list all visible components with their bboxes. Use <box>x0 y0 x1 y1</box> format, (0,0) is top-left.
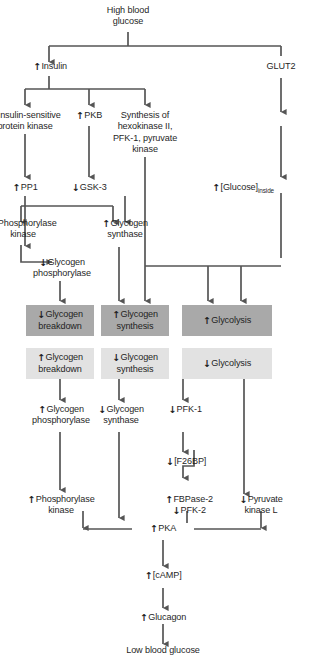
up-arrow-icon: ↑ <box>12 183 20 193</box>
node-glycogen-synthase-bottom-label: Glycogen synthase <box>103 404 144 425</box>
box-glycolysis-increase: ↑Glycolysis <box>182 305 272 336</box>
node-f26bp: ↓[F26BP] <box>150 456 222 467</box>
node-camp: ↑[cAMP] <box>128 570 198 581</box>
node-pfk2: ↓PFK-2 <box>153 505 225 516</box>
down-arrow-icon: ↓ <box>37 310 45 320</box>
node-glycogen-synthase-top-label: Glycogen synthase <box>107 218 148 239</box>
node-synthesis-enzymes: Synthesis of hexokinase II, PFK-1, pyruv… <box>104 110 186 156</box>
node-glut2: GLUT2 <box>249 61 313 72</box>
node-pfk1-label: PFK-1 <box>177 404 202 414</box>
up-arrow-icon: ↑ <box>165 495 173 505</box>
up-arrow-icon: ↑ <box>203 316 211 326</box>
up-arrow-icon: ↑ <box>212 183 220 193</box>
node-insulin-sensitive-protein-kinase: ↑Insulin-sensitive protein kinase <box>0 110 68 133</box>
node-insulin: ↑Insulin <box>14 61 86 72</box>
box-glycolysis-decrease-label: Glycolysis <box>211 358 251 368</box>
up-arrow-icon: ↑ <box>150 524 158 534</box>
node-low-blood-glucose-label: Low blood glucose <box>126 645 200 655</box>
box-glycogen-breakdown-decrease-label: Glycogen breakdown <box>38 309 83 330</box>
down-arrow-icon: ↓ <box>98 405 106 415</box>
node-f26bp-label: [F26BP] <box>174 456 206 466</box>
node-glucagon: ↑Glucagon <box>126 612 200 623</box>
node-phosphorylase-kinase-bottom: ↑Phosphorylase kinase <box>18 494 104 517</box>
node-gsk3: ↓GSK-3 <box>59 182 119 193</box>
node-glucose-inside-label: [Glucose] <box>220 182 258 192</box>
box-glycolysis-increase-label: Glycolysis <box>211 315 251 325</box>
down-arrow-icon: ↓ <box>166 457 174 467</box>
node-glucose-inside-subscript: inside <box>258 187 274 194</box>
up-arrow-icon: ↑ <box>76 111 84 121</box>
box-glycogen-synthesis-increase-label: Glycogen synthesis <box>116 309 158 330</box>
down-arrow-icon: ↓ <box>239 495 247 505</box>
node-high-blood-glucose-label: High blood glucose <box>107 5 149 26</box>
node-glucagon-label: Glucagon <box>148 612 186 622</box>
up-arrow-icon: ↑ <box>27 495 35 505</box>
node-pfk1: ↓PFK-1 <box>155 404 215 415</box>
node-pyruvate-kinase-l: ↓Pyruvate kinase L <box>226 494 296 517</box>
node-phosphorylase-kinase-top-label: Phosphorylase kinase <box>0 218 57 239</box>
down-arrow-icon: ↓ <box>203 359 211 369</box>
node-pp1: ↑PP1 <box>0 182 56 193</box>
box-glycogen-synthesis-decrease-label: Glycogen synthesis <box>116 352 158 373</box>
node-insulin-sensitive-protein-kinase-label: Insulin-sensitive protein kinase <box>0 110 61 131</box>
box-glycogen-breakdown-decrease: ↓Glycogen breakdown <box>26 305 94 336</box>
down-arrow-icon: ↓ <box>39 258 47 268</box>
node-camp-label: [cAMP] <box>153 570 182 580</box>
node-low-blood-glucose: Low blood glucose <box>108 645 218 656</box>
node-fbpase2: ↑FBPase-2 <box>153 494 225 505</box>
down-arrow-icon: ↓ <box>172 506 180 516</box>
node-glucose-inside: ↑[Glucose]inside <box>212 182 322 193</box>
node-gsk3-label: GSK-3 <box>80 182 107 192</box>
up-arrow-icon: ↑ <box>102 219 110 229</box>
node-glut2-label: GLUT2 <box>267 61 296 71</box>
pathway-diagram: High blood glucose ↑Insulin GLUT2 ↑Insul… <box>0 0 325 661</box>
down-arrow-icon: ↓ <box>112 353 120 363</box>
node-glycogen-synthase-bottom: ↓Glycogen synthase <box>88 404 154 427</box>
up-arrow-icon: ↑ <box>140 613 148 623</box>
up-arrow-icon: ↑ <box>38 405 46 415</box>
node-phosphorylase-kinase-top: ↓Phosphorylase kinase <box>0 218 62 241</box>
node-pfk2-label: PFK-2 <box>181 505 206 515</box>
node-insulin-label: Insulin <box>41 61 67 71</box>
node-pp1-label: PP1 <box>21 182 38 192</box>
node-fbpase2-label: FBPase-2 <box>173 494 213 504</box>
node-pyruvate-kinase-l-label: Pyruvate kinase L <box>244 494 282 515</box>
box-glycogen-breakdown-increase: ↑Glycogen breakdown <box>26 348 94 379</box>
node-phosphorylase-kinase-bottom-label: Phosphorylase kinase <box>36 494 95 515</box>
down-arrow-icon: ↓ <box>168 405 176 415</box>
node-high-blood-glucose: High blood glucose <box>88 5 168 28</box>
box-glycogen-synthesis-decrease: ↓Glycogen synthesis <box>101 348 169 379</box>
box-glycogen-synthesis-increase: ↑Glycogen synthesis <box>101 305 169 336</box>
up-arrow-icon: ↑ <box>112 310 120 320</box>
node-pka-label: PKA <box>158 523 176 533</box>
up-arrow-icon: ↑ <box>33 62 41 72</box>
up-arrow-icon: ↑ <box>37 353 45 363</box>
node-glycogen-phosphorylase-top: ↓Glycogen phosphorylase <box>22 257 102 280</box>
node-pka: ↑PKA <box>132 523 194 534</box>
node-pkb-label: PKB <box>84 110 102 120</box>
up-arrow-icon: ↑ <box>144 571 152 581</box>
down-arrow-icon: ↓ <box>71 183 79 193</box>
node-synthesis-enzymes-label: Synthesis of hexokinase II, PFK-1, pyruv… <box>113 110 177 154</box>
box-glycogen-breakdown-increase-label: Glycogen breakdown <box>38 352 83 373</box>
box-glycolysis-decrease: ↓Glycolysis <box>182 348 272 379</box>
node-glycogen-synthase-top: ↑Glycogen synthase <box>92 218 158 241</box>
